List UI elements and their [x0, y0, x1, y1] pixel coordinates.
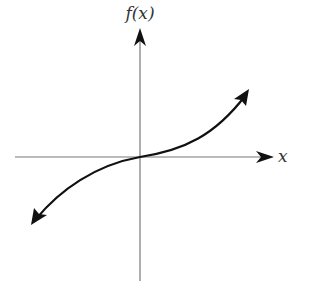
x-axis-label: x [278, 148, 288, 165]
curve-end-arrow-icon [234, 89, 249, 106]
y-axis-label: f(x) [117, 5, 163, 22]
function-graph [0, 0, 315, 281]
